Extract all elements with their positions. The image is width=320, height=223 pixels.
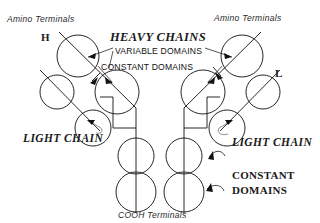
constant-domain-circle-heavy-left-ch1 (95, 70, 139, 114)
leader-variable-right-arrowhead (224, 53, 232, 59)
curved-arrow-upper-head (208, 151, 214, 160)
label-constant-domains-line2: DOMAINS (232, 184, 287, 196)
label-variable-domains: VARIABLE DOMAINS (115, 46, 202, 56)
hinge-connector-right (184, 97, 220, 128)
label-cooh-terminals: COOH Terminals (118, 210, 187, 220)
label-constant-domains-line1: CONSTANT (232, 169, 295, 181)
label-amino-terminals-right: Amino Terminals (213, 13, 282, 23)
hinge-connector-left (100, 97, 136, 128)
label-chain-letter-h: H (41, 31, 50, 43)
label-light-chain-left: LIGHT CHAIN (22, 132, 103, 144)
label-chain-letter-l: L (275, 67, 282, 79)
antibody-structure-figure: Amino Terminals Amino Terminals H L HEAV… (0, 0, 320, 223)
variable-domain-circle-light-left (40, 75, 74, 109)
curved-arrow-lower-head (206, 183, 213, 192)
leader-light-chain-right-hook (218, 128, 228, 135)
diagram-canvas: Amino Terminals Amino Terminals H L HEAV… (0, 0, 320, 223)
label-heavy-chains: HEAVY CHAINS (109, 30, 206, 44)
label-amino-terminals-left: Amino Terminals (6, 14, 75, 24)
label-light-chain-right: LIGHT CHAIN (231, 136, 312, 148)
leader-variable-left-arrowhead (88, 53, 96, 59)
heavy-chain-left-backbone (59, 32, 136, 213)
leader-constant-right-2 (208, 66, 222, 82)
variable-domain-circle-light-right (246, 75, 280, 109)
label-constant-domains-top: CONSTANT DOMAINS (101, 62, 193, 72)
